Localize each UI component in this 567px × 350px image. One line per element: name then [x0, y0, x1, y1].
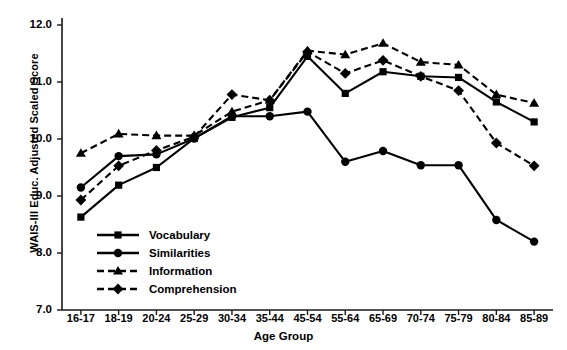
legend-item-vocabulary: Vocabulary — [96, 226, 237, 244]
series-layer — [75, 38, 539, 246]
x-tick-16-17: 16-17 — [67, 312, 95, 324]
legend-item-comprehension: Comprehension — [96, 280, 237, 298]
legend-label-information: Information — [149, 264, 212, 278]
x-tick-45-54: 45-54 — [293, 312, 321, 324]
legend-label-vocabulary: Vocabulary — [149, 228, 210, 242]
legend-key-similarities — [96, 246, 140, 260]
x-tick-70-74: 70-74 — [407, 312, 435, 324]
x-tick-65-69: 65-69 — [369, 312, 397, 324]
legend-key-comprehension — [96, 282, 140, 296]
x-tick-55-64: 55-64 — [331, 312, 359, 324]
x-axis-label: Age Group — [0, 330, 567, 342]
legend-key-vocabulary — [96, 228, 140, 242]
x-tick-80-84: 80-84 — [482, 312, 510, 324]
legend-label-similarities: Similarities — [149, 246, 210, 260]
line-chart: WAIS-III Educ. Adjusted Scaled Score 12.… — [0, 0, 567, 350]
legend-key-information — [96, 264, 140, 278]
x-tick-30-34: 30-34 — [218, 312, 246, 324]
legend-label-comprehension: Comprehension — [149, 282, 237, 296]
plot-area — [0, 0, 567, 350]
x-tick-75-79: 75-79 — [444, 312, 472, 324]
chart-legend: Vocabulary Similarities Information Comp… — [96, 226, 237, 298]
x-tick-25-29: 25-29 — [180, 312, 208, 324]
x-tick-85-89: 85-89 — [520, 312, 548, 324]
x-tick-18-19: 18-19 — [105, 312, 133, 324]
x-tick-35-44: 35-44 — [256, 312, 284, 324]
x-tick-20-24: 20-24 — [142, 312, 170, 324]
legend-item-similarities: Similarities — [96, 244, 237, 262]
series-vocabulary — [77, 53, 537, 221]
legend-item-information: Information — [96, 262, 237, 280]
